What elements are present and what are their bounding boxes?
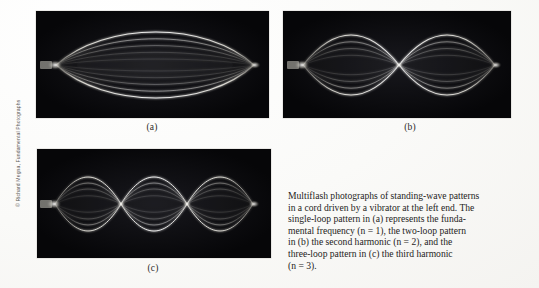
photo-panel-c [37,149,271,258]
caption-line-3: single-loop pattern in (a) represents th… [288,213,532,225]
photo-panel-a [36,11,269,118]
caption-line-1: Multiflash photographs of standing-wave … [288,190,532,202]
caption-line-7: (n = 3). [288,260,532,272]
standing-wave-illustration-b [283,11,511,118]
panel-label-c: (c) [123,263,183,273]
figure-page: (a) [0,0,539,288]
caption-line-6: three-loop pattern in (c) the third harm… [288,248,532,260]
standing-wave-illustration-c [37,149,271,258]
panel-label-a: (a) [122,122,182,132]
standing-wave-illustration-a [36,11,269,118]
caption-line-5: in (b) the second harmonic (n = 2), and … [288,236,532,248]
caption-line-2: in a cord driven by a vibrator at the le… [288,202,532,214]
panel-label-b: (b) [380,122,440,132]
photo-panel-b [283,11,511,118]
caption-line-4: mental frequency (n = 1), the two-loop p… [288,225,532,237]
figure-caption: Multiflash photographs of standing-wave … [288,190,532,271]
photo-credit: © Richard Megna, Fundamental Photographs [15,95,21,207]
photo-credit-text: © Richard Megna, Fundamental Photographs [15,100,21,207]
